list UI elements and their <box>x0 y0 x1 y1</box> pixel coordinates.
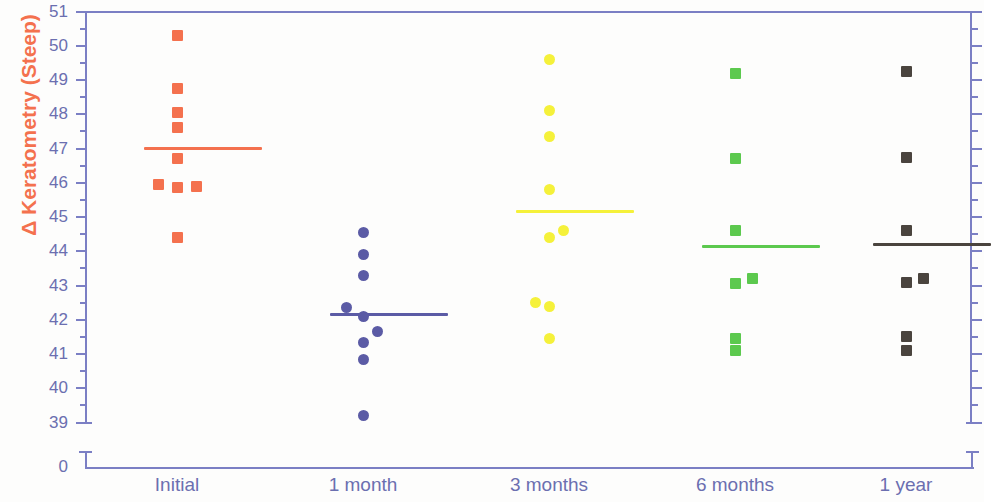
y-tick-major <box>76 387 86 389</box>
y-tick-major <box>76 182 86 184</box>
data-point <box>901 331 912 342</box>
data-point <box>901 225 912 236</box>
y-tick-major <box>76 216 86 218</box>
data-point <box>544 301 555 312</box>
group-mean-line <box>873 243 991 246</box>
y-tick-major <box>76 113 86 115</box>
y-tick-major-right <box>971 113 982 115</box>
data-point <box>901 277 912 288</box>
y-tick-minor <box>80 62 86 64</box>
data-point <box>918 273 929 284</box>
data-point <box>358 311 369 322</box>
data-point <box>172 83 183 94</box>
y-tick-major-right <box>971 79 982 81</box>
y-tick-major-right <box>971 182 982 184</box>
y-tick-minor-right <box>971 62 978 64</box>
plot-area <box>85 11 972 423</box>
data-point <box>901 152 912 163</box>
x-axis-label: 3 months <box>469 474 629 497</box>
data-point <box>172 153 183 164</box>
y-tick-minor <box>80 233 86 235</box>
data-point <box>730 333 741 344</box>
y-tick-minor <box>80 302 86 304</box>
data-point <box>730 225 741 236</box>
y-tick-label: 47 <box>8 140 68 157</box>
y-tick-major <box>76 285 86 287</box>
group-mean-line <box>330 313 448 316</box>
y-tick-label: 42 <box>8 311 68 328</box>
data-point <box>747 273 758 284</box>
data-point <box>372 326 383 337</box>
y-tick-minor <box>80 336 86 338</box>
data-point <box>358 354 369 365</box>
y-tick-major <box>76 148 86 150</box>
data-point <box>544 333 555 344</box>
data-point <box>358 270 369 281</box>
y-tick-label: 41 <box>8 345 68 362</box>
y-tick-label: 49 <box>8 71 68 88</box>
y-tick-minor <box>80 404 86 406</box>
data-point <box>358 410 369 421</box>
data-point <box>730 153 741 164</box>
data-point <box>730 345 741 356</box>
y-tick-major-right <box>971 216 982 218</box>
y-tick-label: 51 <box>8 3 68 20</box>
y-tick-major <box>76 353 86 355</box>
x-axis-label: 1 month <box>283 474 443 497</box>
y-tick-minor <box>80 130 86 132</box>
axis-stub <box>85 451 87 468</box>
data-point <box>358 249 369 260</box>
y-tick-minor <box>80 165 86 167</box>
data-point <box>358 337 369 348</box>
y-tick-minor-right <box>971 233 978 235</box>
group-mean-line <box>516 210 634 213</box>
y-tick-major-right <box>971 387 982 389</box>
axis-break-cap <box>966 422 979 424</box>
y-tick-major-right <box>971 11 982 13</box>
y-tick-label: 44 <box>8 242 68 259</box>
y-tick-minor <box>80 96 86 98</box>
y-tick-major <box>76 250 86 252</box>
y-tick-minor-right <box>971 336 978 338</box>
data-point <box>172 30 183 41</box>
y-tick-major <box>76 45 86 47</box>
data-point <box>544 232 555 243</box>
y-tick-major-right <box>971 148 982 150</box>
y-tick-minor-right <box>971 96 978 98</box>
y-tick-minor-right <box>971 165 978 167</box>
y-tick-minor <box>80 267 86 269</box>
data-point <box>341 302 352 313</box>
data-point <box>172 232 183 243</box>
data-point <box>172 122 183 133</box>
y-tick-minor-right <box>971 267 978 269</box>
data-point <box>901 66 912 77</box>
y-tick-major-right <box>971 250 982 252</box>
x-axis-label: 6 months <box>655 474 815 497</box>
y-tick-minor-right <box>971 370 978 372</box>
y-tick-label: 45 <box>8 208 68 225</box>
data-point <box>172 107 183 118</box>
y-tick-minor <box>80 199 86 201</box>
data-point <box>358 227 369 238</box>
data-point <box>730 68 741 79</box>
y-tick-label: 39 <box>8 414 68 431</box>
group-mean-line <box>144 147 262 150</box>
y-tick-label: 48 <box>8 105 68 122</box>
group-mean-line <box>702 245 820 248</box>
y-tick-minor <box>80 28 86 30</box>
y-tick-major-right <box>971 285 982 287</box>
data-point <box>544 184 555 195</box>
y-tick-minor-right <box>971 404 978 406</box>
data-point <box>558 225 569 236</box>
data-point <box>544 54 555 65</box>
y-tick-minor <box>80 370 86 372</box>
y-tick-major-right <box>971 353 982 355</box>
data-point <box>544 131 555 142</box>
data-point <box>153 179 164 190</box>
data-point <box>172 182 183 193</box>
data-point <box>730 278 741 289</box>
data-point <box>544 105 555 116</box>
y-tick-major <box>76 79 86 81</box>
y-tick-major-right <box>971 319 982 321</box>
